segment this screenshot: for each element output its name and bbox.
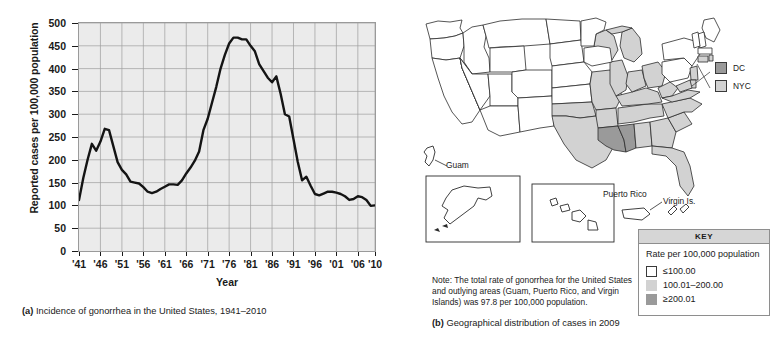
key-swatch-high — [646, 294, 657, 305]
state-nj — [690, 66, 698, 80]
key-item-mid: 100.01–200.00 — [646, 280, 762, 291]
alaska-inset-box — [426, 176, 520, 242]
line-chart-svg — [79, 23, 375, 251]
panel-a-caption: (a) Incidence of gonorrhea in the United… — [22, 306, 267, 316]
panel-b-caption: (b) Geographical distribution of cases i… — [432, 318, 620, 328]
y-tick-label: 500 — [30, 18, 66, 29]
map-label-virgin-is: Virgin Is. — [663, 196, 695, 206]
state-co — [512, 70, 552, 98]
panel-b-caption-marker: (b) — [432, 318, 444, 328]
key-label-mid: 100.01–200.00 — [663, 280, 723, 290]
y-tick-label: 50 — [30, 223, 66, 234]
state-sd — [550, 40, 584, 66]
key-label-high: ≥200.01 — [663, 294, 695, 304]
legend-item-nyc: NYC — [715, 80, 751, 92]
territory-puerto-rico — [622, 208, 650, 220]
panel-a-caption-marker: (a) — [22, 306, 33, 316]
key-swatch-low — [646, 266, 657, 277]
y-tick-label: 300 — [30, 109, 66, 120]
key-label-low: ≤100.00 — [663, 266, 695, 276]
data-line-gonorrhea-incidence — [79, 38, 375, 206]
state-nd — [546, 19, 581, 44]
state-mt — [483, 19, 550, 48]
y-tick-label: 350 — [30, 86, 66, 97]
state-ia — [584, 46, 612, 66]
dc-nyc-legend: DC NYC — [715, 62, 751, 98]
state-ri — [709, 55, 713, 61]
y-tick-label: 100 — [30, 200, 66, 211]
dc-label: DC — [733, 63, 745, 73]
chart-area: Reported cases per 100,000 population 05… — [0, 8, 400, 293]
legend-item-dc: DC — [715, 62, 751, 74]
state-shapes — [426, 18, 720, 196]
key-item-low: ≤100.00 — [646, 266, 762, 277]
territory-guam — [424, 146, 435, 166]
map-note: Note: The total rate of gonorrhea for th… — [432, 275, 647, 307]
gridlines — [79, 23, 375, 251]
x-axis-label: Year — [78, 276, 376, 288]
y-tick-label: 150 — [30, 178, 66, 189]
y-tick-label: 250 — [30, 132, 66, 143]
puerto-rico-leader-line — [650, 202, 662, 210]
nyc-label: NYC — [733, 81, 751, 91]
panel-a-incidence-chart: Reported cases per 100,000 population 05… — [0, 0, 400, 349]
nyc-swatch — [715, 80, 727, 92]
state-fl — [652, 146, 694, 196]
y-tick-label: 0 — [30, 246, 66, 257]
state-mi — [620, 28, 642, 62]
plot-region — [78, 22, 376, 252]
map-label-guam: Guam — [446, 160, 469, 170]
state-az — [480, 106, 520, 136]
state-ct — [698, 56, 708, 62]
state-al — [634, 122, 652, 148]
map-key-title: Rate per 100,000 population — [646, 249, 762, 260]
panel-b-caption-text: Geographical distribution of cases in 20… — [446, 318, 619, 328]
dc-swatch — [715, 62, 727, 74]
x-tick-label: '10 — [360, 259, 390, 270]
map-label-puerto-rico: Puerto Rico — [603, 189, 647, 199]
map-key-body: Rate per 100,000 population ≤100.00 100.… — [639, 244, 769, 315]
state-ks — [552, 84, 592, 104]
state-ma — [698, 48, 712, 54]
map-key-header: KEY — [639, 230, 769, 244]
y-tick-label: 200 — [30, 155, 66, 166]
key-swatch-mid — [646, 280, 657, 291]
state-wy — [490, 46, 526, 72]
state-ar — [596, 108, 618, 128]
nyc-leader-line — [697, 64, 710, 88]
key-item-high: ≥200.01 — [646, 294, 762, 305]
figure-root: Reported cases per 100,000 population 05… — [0, 0, 778, 349]
panel-b-map: Guam Puerto Rico Virgin Is. DC NYC KEY R… — [400, 0, 778, 349]
panel-a-caption-text: Incidence of gonorrhea in the United Sta… — [36, 306, 267, 316]
y-tick-label: 450 — [30, 41, 66, 52]
y-tick-label: 400 — [30, 64, 66, 75]
state-nm — [518, 96, 554, 132]
map-key: KEY Rate per 100,000 population ≤100.00 … — [638, 229, 770, 316]
